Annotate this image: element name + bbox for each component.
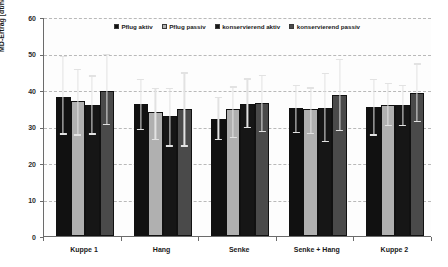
error-bar-cap-top [293, 85, 300, 86]
legend-item[interactable]: konservierend aktiv [215, 23, 281, 30]
error-bar [232, 86, 233, 137]
error-bar-cap-bottom [74, 134, 81, 135]
error-bar-cap-bottom [385, 125, 392, 126]
error-bar [140, 79, 141, 130]
bar-slot [56, 18, 71, 236]
bar-slot [226, 18, 241, 236]
legend-item[interactable]: konservierend passiv [289, 23, 360, 30]
error-bar [184, 72, 185, 146]
error-bar [339, 59, 340, 131]
x-axis-category-label: Senke + Hang [272, 246, 362, 253]
bar-slot [303, 18, 318, 236]
bar-slot [410, 18, 425, 236]
error-bar [155, 88, 156, 141]
chart-legend: Pflug aktivPflug passivkonservierend akt… [43, 23, 431, 30]
x-axis-tick [198, 237, 199, 241]
legend-swatch-icon [215, 24, 220, 29]
error-bar-cap-bottom [414, 121, 421, 122]
bar-series-layer [44, 18, 431, 236]
error-bar-cap-top [89, 75, 96, 76]
bar-slot [395, 18, 410, 236]
error-bar-cap-top [244, 78, 251, 79]
bar-slot [381, 18, 396, 236]
bar-group [366, 18, 424, 236]
x-axis-tick [276, 237, 277, 241]
error-bar-cap-bottom [89, 133, 96, 134]
error-bar-cap-top [60, 56, 67, 57]
error-bar-cap-bottom [307, 133, 314, 134]
error-bar-cap-bottom [166, 145, 173, 146]
x-axis-category-label: Kuppe 1 [39, 246, 129, 253]
y-axis-tick-label: 10 [10, 197, 36, 204]
y-axis-tick-label: 50 [10, 51, 36, 58]
legend-swatch-icon [162, 24, 167, 29]
error-bar-cap-top [74, 69, 81, 70]
error-bar-cap-top [166, 88, 173, 89]
error-bar [324, 73, 325, 142]
error-bar-cap-top [385, 83, 392, 84]
x-axis-tick [43, 237, 44, 241]
bar-slot [85, 18, 100, 236]
x-axis-tick [121, 237, 122, 241]
error-bar [295, 85, 296, 134]
bar-group [134, 18, 192, 236]
error-bar-cap-bottom [258, 131, 265, 132]
legend-item[interactable]: Pflug aktiv [114, 23, 153, 30]
y-axis-tick-label: 0 [10, 234, 36, 241]
legend-swatch-icon [289, 24, 294, 29]
error-bar-cap-bottom [152, 139, 159, 140]
error-bar-cap-top [229, 86, 236, 87]
error-bar-cap-bottom [103, 124, 110, 125]
x-axis-category-label: Hang [117, 246, 207, 253]
bar-slot [177, 18, 192, 236]
error-bar-cap-top [322, 73, 329, 74]
error-bar-cap-top [336, 59, 343, 60]
bar-slot [134, 18, 149, 236]
bar-group [56, 18, 114, 236]
legend-item-label: konservierend aktiv [222, 23, 280, 30]
error-bar [77, 69, 78, 136]
error-bar-cap-bottom [244, 127, 251, 128]
bar-slot [100, 18, 115, 236]
error-bar-cap-bottom [215, 139, 222, 140]
error-bar [63, 56, 64, 135]
error-bar-cap-top [414, 63, 421, 64]
error-bar-cap-top [137, 79, 144, 80]
error-bar [247, 78, 248, 128]
x-axis-tick [431, 237, 432, 241]
bar-slot [366, 18, 381, 236]
y-axis-tick-label: 40 [10, 88, 36, 95]
error-bar [106, 54, 107, 125]
error-bar [373, 79, 374, 136]
error-bar-cap-bottom [60, 133, 67, 134]
x-axis-category-label: Kuppe 2 [349, 246, 439, 253]
bar-group [289, 18, 347, 236]
bar-slot [211, 18, 226, 236]
error-bar [92, 75, 93, 134]
y-axis-tick-label: 30 [10, 124, 36, 131]
bar-slot [163, 18, 178, 236]
bar-slot [148, 18, 163, 236]
error-bar-cap-bottom [370, 134, 377, 135]
legend-item-label: konservierend passiv [297, 23, 360, 30]
y-axis-tick-label: 60 [10, 15, 36, 22]
legend-item-label: Pflug passiv [169, 23, 205, 30]
error-bar-cap-top [307, 87, 314, 88]
error-bar-cap-bottom [293, 132, 300, 133]
error-bar-cap-bottom [322, 141, 329, 142]
error-bar [218, 97, 219, 141]
bar-chart-figure: MD-Ertrag [dt/ha] 0102030405060 Pflug ak… [0, 0, 448, 267]
x-axis-tick [353, 237, 354, 241]
error-bar-cap-top [258, 75, 265, 76]
error-bar-cap-bottom [181, 145, 188, 146]
error-bar [169, 88, 170, 146]
bar-slot [240, 18, 255, 236]
legend-item[interactable]: Pflug passiv [162, 23, 206, 30]
error-bar-cap-top [399, 85, 406, 86]
bar-slot [289, 18, 304, 236]
x-axis-category-label: Senke [194, 246, 284, 253]
y-axis-title: MD-Ertrag [dt/ha] [0, 0, 5, 52]
error-bar [261, 75, 262, 133]
error-bar-cap-bottom [336, 130, 343, 131]
error-bar-cap-top [103, 54, 110, 55]
